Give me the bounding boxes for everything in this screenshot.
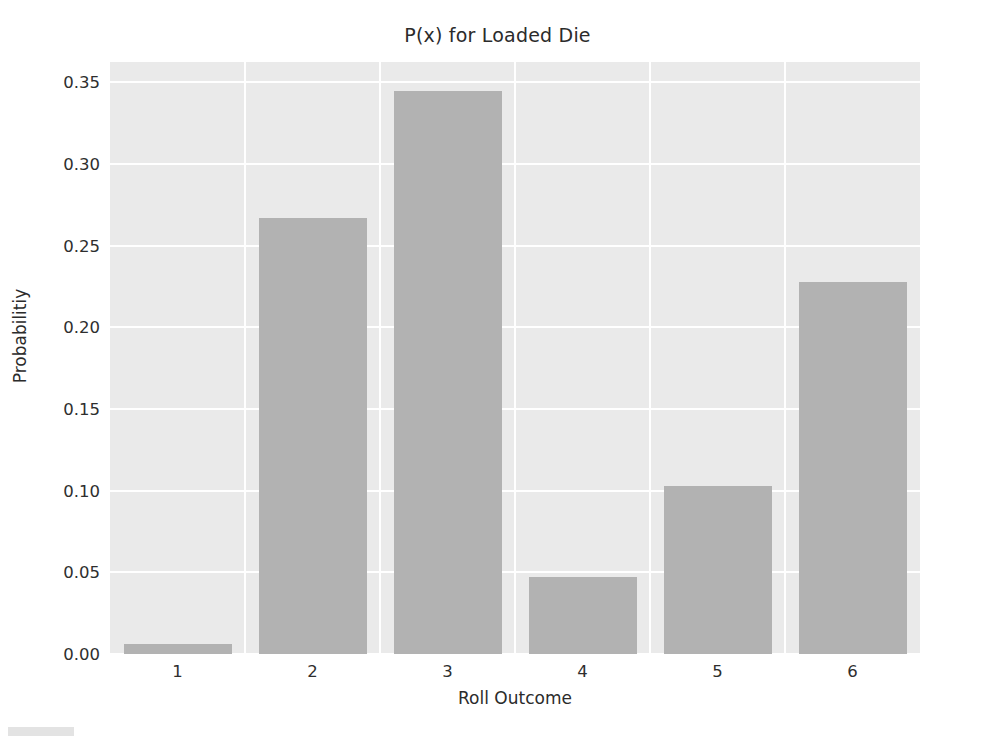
plot-area <box>110 62 920 654</box>
x-axis-label: Roll Outcome <box>110 688 920 708</box>
x-tick-label: 1 <box>172 662 183 681</box>
page-edge-artifact <box>8 727 74 736</box>
y-axis-label: Probabilitiy <box>10 256 30 416</box>
y-tick-label: 0.05 <box>8 563 100 582</box>
x-tick-label: 6 <box>847 662 858 681</box>
bar-3 <box>394 91 502 654</box>
bar-series <box>110 62 920 654</box>
bar-2 <box>259 218 367 654</box>
y-tick-label: 0.35 <box>8 73 100 92</box>
x-tick-label: 5 <box>712 662 723 681</box>
y-tick-label: 0.25 <box>8 236 100 255</box>
x-tick-label: 3 <box>442 662 453 681</box>
chart-title: P(x) for Loaded Die <box>0 24 995 46</box>
y-tick-label: 0.10 <box>8 481 100 500</box>
bar-5 <box>664 486 772 654</box>
x-axis-tick-labels: 123456 <box>110 662 920 688</box>
y-tick-label: 0.00 <box>8 645 100 664</box>
y-tick-label: 0.30 <box>8 155 100 174</box>
bar-4 <box>529 577 637 654</box>
x-tick-label: 4 <box>577 662 588 681</box>
bar-6 <box>799 282 907 654</box>
chart-figure: P(x) for Loaded Die 0.000.050.100.150.20… <box>0 0 995 749</box>
x-tick-label: 2 <box>307 662 318 681</box>
bar-1 <box>124 644 232 654</box>
